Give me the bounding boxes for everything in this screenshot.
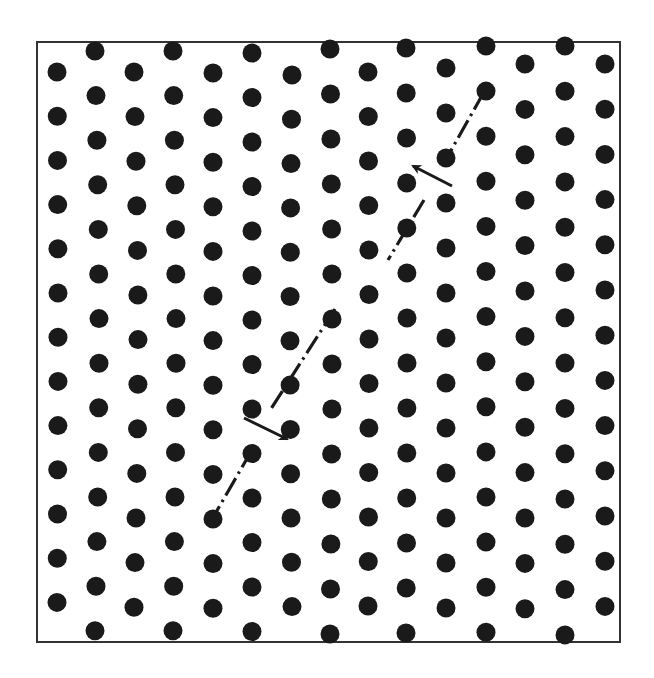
atom-dot — [322, 490, 341, 509]
atom-dot — [281, 198, 300, 217]
atom-dot — [243, 400, 262, 419]
atom-dot — [477, 623, 496, 642]
atom-dot — [516, 55, 535, 74]
atom-dot — [243, 177, 262, 196]
atom-dot — [397, 399, 416, 418]
atom-dot — [359, 419, 378, 438]
atom-dot — [477, 172, 496, 191]
atom-dot — [359, 196, 378, 215]
atom-dot — [322, 445, 341, 464]
atom-dot — [204, 599, 223, 618]
atom-dot — [48, 195, 67, 214]
atom-dot — [88, 175, 107, 194]
atom-dot — [596, 100, 615, 119]
atom-dot — [477, 578, 496, 597]
atom-dot — [48, 416, 67, 435]
atom-dot — [167, 354, 186, 373]
atom-dot — [397, 129, 416, 148]
atom-dot — [281, 331, 300, 350]
atom-dot — [128, 375, 147, 394]
atom-dot — [128, 241, 147, 260]
atom-dot — [556, 354, 575, 373]
atom-dot — [204, 153, 223, 172]
atom-dot — [596, 281, 615, 300]
atom-dot — [282, 154, 301, 173]
atom-dot — [204, 64, 223, 83]
atom-dot — [243, 622, 262, 641]
lattice-atoms — [48, 37, 615, 645]
atom-dot — [48, 63, 67, 82]
atom-dot — [48, 239, 67, 258]
atom-dot — [398, 354, 417, 373]
atom-dot — [477, 307, 496, 326]
atom-dot — [243, 533, 262, 552]
atom-dot — [556, 580, 575, 599]
atom-dot — [166, 443, 185, 462]
atom-dot — [477, 262, 496, 281]
atom-dot — [556, 308, 575, 327]
atom-dot — [49, 328, 68, 347]
atom-dot — [281, 243, 300, 262]
atom-dot — [87, 577, 106, 596]
atom-dot — [516, 327, 535, 346]
atom-dot — [323, 355, 342, 374]
atom-dot — [282, 509, 301, 528]
atom-dot — [166, 220, 185, 239]
atom-dot — [243, 355, 262, 374]
atom-dot — [397, 39, 416, 58]
atom-dot — [477, 533, 496, 552]
atom-dot — [126, 553, 145, 572]
atom-dot — [166, 175, 185, 194]
atom-dot — [556, 263, 575, 282]
atom-dot — [516, 599, 535, 618]
atom-dot — [596, 371, 615, 390]
atom-dot — [204, 108, 223, 127]
atom-dot — [398, 309, 417, 328]
atom-dot — [360, 374, 379, 393]
atom-dot — [596, 461, 615, 480]
atom-dot — [243, 133, 262, 152]
atom-dot — [204, 376, 223, 395]
atom-dot — [437, 104, 456, 123]
atom-dot — [243, 88, 262, 107]
atom-dot — [556, 625, 575, 644]
atom-dot — [321, 85, 340, 104]
atom-dot — [397, 534, 416, 553]
atom-dot — [516, 418, 535, 437]
atom-dot — [397, 264, 416, 283]
atom-dot — [87, 131, 106, 150]
atom-dot — [321, 130, 340, 149]
atom-dot — [129, 330, 148, 349]
atom-dot — [359, 508, 378, 527]
atom-dot — [359, 63, 378, 82]
atom-dot — [204, 465, 223, 484]
atom-dot — [322, 400, 341, 419]
atom-dot — [127, 509, 146, 528]
atom-dot — [321, 40, 340, 59]
atom-dot — [243, 311, 262, 330]
atom-dot — [397, 444, 416, 463]
atom-dot — [281, 287, 300, 306]
atom-dot — [322, 265, 341, 284]
atom-dot — [89, 265, 108, 284]
atom-dot — [243, 489, 262, 508]
atom-dot — [596, 326, 615, 345]
lower-arrow-icon — [244, 418, 287, 439]
atom-dot — [204, 197, 223, 216]
atom-dot — [437, 554, 456, 573]
atom-dot — [437, 239, 456, 258]
atom-dot — [516, 554, 535, 573]
atom-dot — [165, 532, 184, 551]
atom-dot — [437, 374, 456, 393]
atom-dot — [204, 331, 223, 350]
atom-dot — [556, 218, 575, 237]
atom-dot — [516, 372, 535, 391]
atom-dot — [596, 597, 615, 616]
atom-dot — [283, 597, 302, 616]
atom-dot — [283, 66, 302, 85]
atom-dot — [166, 398, 185, 417]
upper-slip-segment-a — [449, 92, 484, 154]
lattice-diagram — [0, 0, 654, 678]
atom-dot — [397, 174, 416, 193]
atom-dot — [243, 222, 262, 241]
